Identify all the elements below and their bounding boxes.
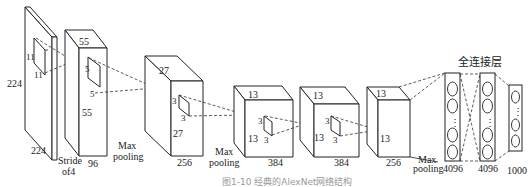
stride-label-line1: Stride <box>58 155 82 166</box>
input-height-label: 224 <box>7 78 22 89</box>
fc2-ellipsis: ⋮ <box>485 117 495 128</box>
fc-title: 全连接层 <box>458 55 502 69</box>
conv4-width-label: 13 <box>313 90 323 101</box>
conv1-kernel-w-label: 5 <box>90 89 95 99</box>
conv4-height-label: 13 <box>314 132 324 143</box>
conv3-kernel-w-label: 3 <box>264 135 269 145</box>
conv2-height-label: 27 <box>173 128 183 139</box>
pool3-label-line2: pooling <box>413 163 444 174</box>
conv1-layer: 55 55 96 5 5 Stride of4 <box>58 30 107 177</box>
alexnet-diagram: 224 224 11 11 55 55 96 5 5 Stride of4 Ma… <box>0 0 529 187</box>
input-layer: 224 224 11 11 <box>7 7 57 160</box>
conv2-width-label: 27 <box>159 65 169 76</box>
conv3-depth-label: 384 <box>268 157 283 168</box>
fc3-layer: ⋮ 1000 <box>507 85 527 176</box>
fc2-layer: ⋮ 4096 <box>478 73 498 174</box>
conv3-height-label: 13 <box>248 133 258 144</box>
conv3-kernel-h-label: 3 <box>258 116 263 126</box>
input-kernel-h-label: 11 <box>26 52 35 62</box>
conv4-layer: 13 13 384 3 3 <box>300 87 359 168</box>
fc1-ellipsis: ⋮ <box>450 117 460 128</box>
pool1-label-line2: pooling <box>113 151 144 162</box>
conv5-layer: 13 13 256 <box>367 87 410 168</box>
conv1-width-label: 55 <box>79 36 89 47</box>
pool2-label-line2: pooling <box>209 157 240 168</box>
fc1-layer: ⋮ 4096 <box>443 73 463 174</box>
conv4-depth-label: 384 <box>334 157 349 168</box>
conv2-layer: 27 27 256 3 3 <box>145 56 203 168</box>
conv2-kernel-w-label: 3 <box>181 113 186 123</box>
conv5-height-label: 13 <box>380 133 390 144</box>
pool2-label-line1: Max <box>215 146 233 157</box>
fc3-ellipsis: ⋮ <box>513 106 523 117</box>
conv4-kernel-h-label: 3 <box>325 116 330 126</box>
pool1-label-line1: Max <box>118 140 136 151</box>
fc2-units-label: 4096 <box>478 163 498 174</box>
conv5-width-label: 13 <box>376 88 386 99</box>
input-kernel-w-label: 11 <box>34 70 43 80</box>
conv1-kernel-h-label: 5 <box>85 64 90 74</box>
conv4-kernel-w-label: 3 <box>333 135 338 145</box>
conv2-depth-label: 256 <box>177 157 192 168</box>
fc3-units-label: 1000 <box>507 165 527 176</box>
conv2-kernel-h-label: 3 <box>172 96 177 106</box>
stride-label-line2: of4 <box>62 166 75 177</box>
conv3-width-label: 13 <box>248 89 258 100</box>
conv1-height-label: 55 <box>82 107 92 118</box>
fc1-units-label: 4096 <box>443 163 463 174</box>
conv3-layer: 13 13 384 3 3 <box>234 86 293 168</box>
conv1-depth-label: 96 <box>88 158 98 169</box>
figure-caption: 图1-10 经典的AlexNet网络结构 <box>222 176 352 187</box>
input-width-label: 224 <box>31 145 46 156</box>
conv5-depth-label: 256 <box>386 157 401 168</box>
